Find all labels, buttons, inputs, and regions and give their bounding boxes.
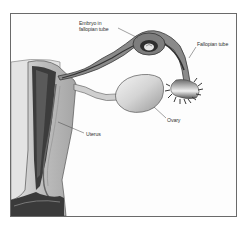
anatomy-illustration xyxy=(0,0,247,232)
label-ovary: Ovary xyxy=(167,117,180,123)
fimbriae xyxy=(165,78,203,104)
fallopian-leader xyxy=(189,47,196,58)
ovary-leader xyxy=(154,107,166,118)
label-fallopian-tube: Fallopian tube xyxy=(197,41,228,47)
fallopian-tube xyxy=(58,31,190,82)
label-uterus: Uterus xyxy=(86,131,101,137)
ovarian-ligament xyxy=(74,84,118,101)
ovary xyxy=(116,74,164,112)
label-embryo: Embryo in fallopian tube xyxy=(79,20,108,32)
embryo-leader xyxy=(118,28,138,38)
